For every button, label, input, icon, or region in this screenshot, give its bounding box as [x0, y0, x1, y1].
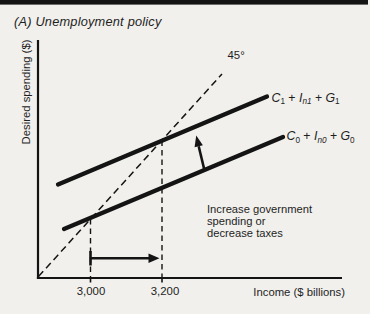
y-axis-label: Desired spending ($)	[20, 39, 32, 144]
shift-up-arrow	[195, 136, 205, 171]
upper-label-g-sub: 1	[335, 97, 340, 106]
45-degree-label: 45°	[228, 49, 245, 61]
lower-label-plus1: +	[300, 129, 314, 143]
x-tick-label-3200: 3,200	[151, 285, 180, 297]
upper-label-plus2: +	[312, 91, 326, 105]
panel-title: (A) Unemployment policy	[14, 14, 163, 29]
annotation-text: Increase governmentspending ordecrease t…	[207, 203, 313, 240]
x-axis-label: Income ($ billions)	[253, 286, 345, 298]
lower-label-plus2: +	[327, 129, 341, 143]
textbook-figure-panel-a: (A) Unemployment policy Desired spending…	[0, 0, 370, 314]
income-increase-arrow	[91, 251, 160, 266]
annotation-line-3: decrease taxes	[207, 227, 283, 239]
income-arrow-head	[149, 254, 160, 263]
upper-label-g: G	[326, 91, 336, 105]
shift-up-arrow-shaft	[199, 146, 205, 170]
lower-label-c: C	[287, 129, 296, 143]
lower-spending-line-label: C0 + In0 + G0	[287, 129, 356, 145]
lower-label-g-sub: 0	[350, 136, 355, 145]
upper-label-c: C	[272, 91, 281, 105]
unemployment-policy-diagram: (A) Unemployment policy Desired spending…	[0, 0, 370, 314]
upper-spending-line-label: C1 + In1 + G1	[272, 91, 341, 107]
upper-label-i-sub: n1	[302, 97, 311, 106]
lower-label-g: G	[341, 129, 351, 143]
shift-up-arrow-head	[195, 136, 203, 148]
x-tick-label-3000: 3,000	[77, 285, 106, 297]
top-divider-bar	[0, 0, 368, 5]
upper-label-plus1: +	[285, 91, 299, 105]
lower-label-i-sub: n0	[317, 136, 327, 145]
annotation-line-1: Increase government	[207, 203, 313, 215]
annotation-line-2: spending or	[207, 215, 266, 227]
